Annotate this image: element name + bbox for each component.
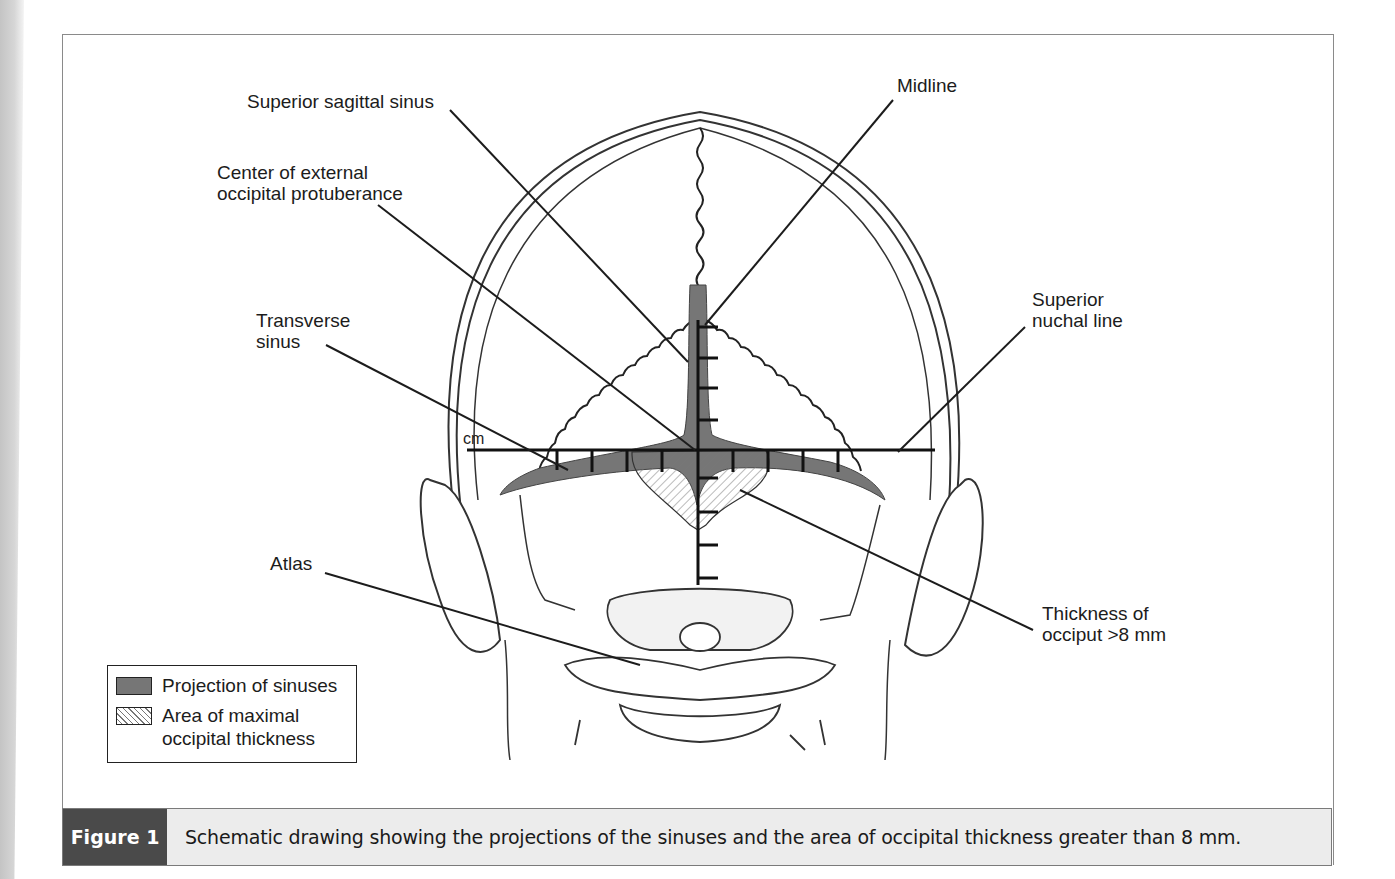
label-transverse-sinus: Transverse sinus bbox=[256, 310, 350, 352]
hatched-swatch-icon bbox=[116, 707, 152, 725]
atlas-vertebra bbox=[565, 589, 835, 750]
label-midline: Midline bbox=[897, 75, 957, 96]
legend-item-thickness: Area of maximal occipital thickness bbox=[116, 704, 315, 750]
legend-item-sinuses: Projection of sinuses bbox=[116, 674, 337, 697]
figure-number-tag: Figure 1 bbox=[63, 809, 167, 865]
label-cm: cm bbox=[463, 428, 484, 449]
label-atlas: Atlas bbox=[270, 553, 312, 574]
label-thickness: Thickness of occiput >8 mm bbox=[1042, 603, 1166, 645]
legend: Projection of sinuses Area of maximal oc… bbox=[107, 665, 357, 763]
solid-swatch-icon bbox=[116, 677, 152, 695]
legend-label: Area of maximal occipital thickness bbox=[162, 704, 315, 750]
legend-label: Projection of sinuses bbox=[162, 674, 337, 697]
label-center-eop: Center of external occipital protuberanc… bbox=[217, 162, 403, 204]
maximal-thickness-area bbox=[632, 450, 769, 530]
label-superior-nuchal-line: Superior nuchal line bbox=[1032, 289, 1123, 331]
figure-caption: Figure 1 Schematic drawing showing the p… bbox=[62, 808, 1332, 866]
caption-text: Schematic drawing showing the projection… bbox=[167, 809, 1331, 865]
label-superior-sagittal-sinus: Superior sagittal sinus bbox=[247, 91, 434, 112]
